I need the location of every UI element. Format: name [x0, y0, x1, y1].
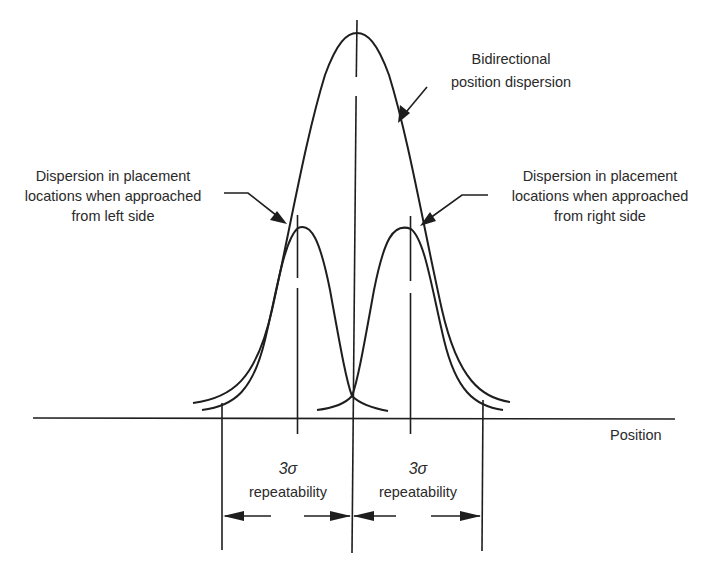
left-dispersion-leader-arrow	[224, 193, 287, 224]
right-dispersion-label: Dispersion in placement locations when a…	[512, 168, 689, 224]
right-dispersion-leader-arrow	[420, 195, 488, 226]
svg-text:3σ: 3σ	[279, 460, 299, 477]
left-side-dispersion-curve	[202, 227, 388, 411]
svg-text:3σ: 3σ	[409, 460, 429, 477]
right-extension-line	[482, 400, 483, 551]
svg-text:repeatability: repeatability	[249, 484, 328, 500]
bidirectional-label: Bidirectional position dispersion	[451, 51, 571, 90]
svg-text:locations when approached: locations when approached	[25, 188, 202, 204]
svg-text:from right side: from right side	[554, 208, 646, 224]
svg-text:Dispersion in placement: Dispersion in placement	[36, 168, 191, 184]
svg-text:Bidirectional: Bidirectional	[472, 51, 551, 67]
svg-text:from left side: from left side	[72, 208, 155, 224]
svg-text:Dispersion in placement: Dispersion in placement	[523, 168, 678, 184]
center-line	[352, 20, 357, 553]
repeatability-diagram: Position 3σ repeatability	[0, 0, 715, 567]
left-interval-label: 3σ repeatability	[249, 460, 328, 500]
bidirectional-leader-arrow	[398, 87, 427, 123]
right-interval-label: 3σ repeatability	[379, 460, 458, 500]
svg-text:position dispersion: position dispersion	[451, 74, 571, 90]
right-interval-arrows	[353, 511, 481, 521]
left-dispersion-label: Dispersion in placement locations when a…	[25, 168, 202, 224]
svg-text:repeatability: repeatability	[379, 484, 458, 500]
axis-label-position: Position	[610, 427, 662, 443]
left-interval-arrows	[223, 511, 351, 521]
svg-text:locations when approached: locations when approached	[512, 188, 689, 204]
